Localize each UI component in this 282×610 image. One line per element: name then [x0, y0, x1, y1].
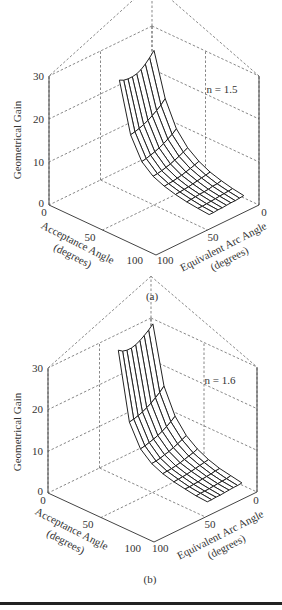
arc-tick-0: 0: [261, 206, 267, 218]
z-tick-20: 20: [33, 113, 45, 125]
figure-canvas: n = 1.5 30 20 10 0 Geometrical Gain 0 50…: [0, 0, 282, 610]
panel-caption-a: (a): [146, 290, 159, 303]
arc-tick-50: 50: [205, 518, 217, 530]
arc-tick-100: 100: [157, 254, 174, 266]
z-axis-label: Geometrical Gain: [11, 392, 23, 471]
arc-tick-0: 0: [253, 494, 259, 506]
z-tick-20: 20: [32, 403, 44, 415]
acceptance-tick-100: 100: [127, 254, 144, 266]
z-tick-10: 10: [33, 156, 45, 168]
z-tick-30: 30: [33, 70, 45, 82]
panel-caption-b: (b): [144, 573, 157, 586]
z-tick-30: 30: [32, 362, 44, 374]
z-tick-10: 10: [32, 445, 44, 457]
chart-panel-a: n = 1.5 30 20 10 0 Geometrical Gain 0 50…: [11, 0, 268, 303]
bottom-rule: [0, 602, 282, 605]
acceptance-tick-0: 0: [41, 206, 47, 218]
acceptance-tick-0: 0: [40, 494, 46, 506]
z-axis-label: Geometrical Gain: [11, 100, 23, 179]
acceptance-tick-100: 100: [125, 542, 142, 554]
surface-mesh: [118, 324, 242, 502]
chart-panel-b: n = 1.6 30 20 10 0 Geometrical Gain 0 50…: [11, 276, 265, 586]
arc-tick-50: 50: [208, 231, 220, 243]
annotation-n: n = 1.6: [205, 374, 236, 386]
annotation-n: n = 1.5: [207, 83, 238, 95]
arc-tick-100: 100: [152, 542, 169, 554]
surface-mesh: [119, 50, 243, 214]
